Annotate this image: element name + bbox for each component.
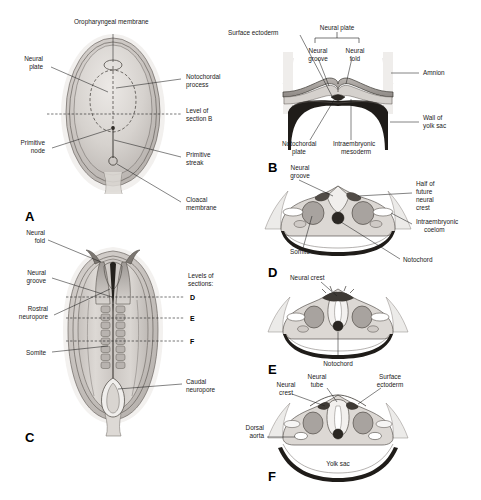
panel-d-leader-neural-groove (299, 180, 333, 196)
panel-c-drawing (48, 240, 184, 436)
label-level-section-b-line2: section B (186, 115, 212, 122)
label-neural-groove-b-line2: groove (308, 55, 328, 63)
panel-d-coelom-right (373, 208, 393, 216)
label-neural-plate-a-line2: plate (29, 63, 43, 71)
label-notochord-e: Notochord (323, 360, 353, 367)
label-surface-ectoderm-f-line1: Surface (379, 373, 401, 380)
label-notochordal-process-line1: Notochordal (186, 73, 220, 80)
panel-d-aorta-left (294, 221, 306, 228)
label-level-section-b-line1: Level of (186, 107, 209, 114)
label-primitive-node-line2: node (31, 147, 46, 154)
panel-d-somite-right (352, 202, 374, 225)
label-intraembryonic-coelom-line2: coelom (424, 226, 445, 233)
label-surface-ectoderm-b: Surface ectoderm (228, 29, 278, 36)
label-somite-c: Somite (26, 349, 46, 356)
panel-letter-d: D (268, 265, 277, 280)
panel-f-notochord-shape (333, 429, 343, 439)
label-wall-yolk-sac-line2: yolk sac (423, 122, 447, 130)
label-cloacal-membrane-line2: membrane (186, 204, 217, 211)
label-neural-fold-c-line2: fold (35, 237, 46, 244)
panel-e-somite-right (352, 306, 372, 328)
label-caudal-neuropore-line2: neuropore (186, 386, 216, 394)
label-neural-tube-line1: Neural (308, 373, 327, 380)
label-intraembryonic-mesoderm-line1: Intraembryonic (333, 140, 376, 148)
panel-f-coelom-right (376, 420, 392, 427)
embryology-figure: Oropharyngeal membrane Neural plate Prim… (0, 0, 481, 500)
label-somite-d: Somite (290, 248, 310, 255)
panel-a-cloacal-membrane-core (111, 159, 115, 163)
label-neural-groove-b-line1: Neural (309, 47, 328, 54)
label-neural-crest-f-line2: crest (279, 389, 293, 396)
panel-d-aorta-right (370, 221, 382, 228)
label-caudal-neuropore-line1: Caudal (186, 378, 206, 385)
label-neural-groove-d-line2: groove (290, 172, 310, 180)
panel-e-aorta-right (368, 326, 379, 332)
label-dorsal-aorta-line2: aorta (249, 432, 264, 439)
panel-a-stalk-fill (104, 172, 122, 194)
label-primitive-node-line1: Primitive (21, 139, 46, 146)
label-yolk-sac-f: Yolk sac (326, 460, 350, 467)
label-neural-fold-b-line2: fold (350, 55, 361, 62)
label-wall-yolk-sac-line1: Wall of (423, 114, 443, 121)
panel-d-drawing (265, 180, 412, 259)
label-neural-tube-line2: tube (311, 381, 324, 388)
panel-d-coelom-left (283, 208, 303, 216)
label-notochordal-plate-line1: Notochordal (282, 140, 316, 147)
label-surface-ectoderm-f-line2: ectoderm (377, 381, 404, 388)
label-notochordal-plate-line2: plate (292, 148, 306, 156)
label-half-future-line3: neural (416, 196, 434, 203)
label-half-future-line1: Half of (416, 180, 435, 187)
panel-b-amnion-right (383, 52, 393, 114)
label-neural-groove-d-line1: Neural (291, 164, 310, 171)
label-neural-plate-a-line1: Neural (24, 55, 43, 62)
label-neural-plate-b: Neural plate (320, 24, 355, 32)
label-half-future-line2: future (416, 188, 433, 195)
panel-a-primitive-node-shape (111, 126, 115, 130)
panel-e-neural-crest-shape (322, 292, 354, 302)
label-level-f: F (190, 338, 195, 345)
label-amnion: Amnion (423, 69, 445, 76)
label-levels-sections-line1: Levels of (188, 272, 214, 279)
panel-d-notochord-shape (332, 212, 344, 224)
label-neural-crest-e: Neural crest (290, 274, 325, 281)
label-intraembryonic-mesoderm-line2: mesoderm (341, 148, 371, 155)
label-level-d: D (190, 294, 195, 301)
panel-f-dorsal-aorta-right (369, 432, 382, 439)
label-oropharyngeal-membrane: Oropharyngeal membrane (74, 18, 149, 26)
panel-f-somite-left (303, 412, 323, 434)
panel-letter-b: B (268, 160, 277, 175)
panel-e-aorta-left (298, 326, 309, 332)
panel-d-somite-left (302, 202, 324, 225)
label-neural-fold-b-line1: Neural (346, 47, 365, 54)
label-primitive-streak-line2: streak (186, 159, 204, 166)
label-rostral-neuropore-line1: Rostral (28, 305, 48, 312)
panel-f-leader-surface-ectoderm (358, 388, 381, 404)
label-level-e: E (190, 315, 195, 322)
panel-letter-a: A (25, 209, 35, 224)
panel-b-amnion-left (283, 52, 293, 114)
panel-d-leader-half-future-crest (358, 193, 412, 196)
panel-c-leader-neural-fold (48, 240, 101, 262)
panel-e-neural-canal (335, 301, 342, 323)
panel-b-amnion-line (283, 58, 393, 84)
panel-e-somite-left (304, 306, 324, 328)
label-levels-sections-line2: sections: (188, 280, 213, 287)
label-intraembryonic-coelom-line1: Intraembryonic (416, 218, 459, 226)
label-notochordal-process-line2: process (186, 81, 208, 89)
label-cloacal-membrane-line1: Cloacal (186, 196, 207, 203)
label-neural-groove-c-line1: Neural (27, 269, 46, 276)
label-notochord-d: Notochord (403, 256, 433, 263)
panel-f-neural-canal (335, 406, 342, 431)
label-dorsal-aorta-line1: Dorsal (246, 424, 264, 431)
panel-e-coelom-right (371, 313, 389, 321)
panel-f-dorsal-aorta-left (295, 432, 308, 439)
panel-b-neural-plate-bracket (315, 32, 359, 43)
panel-f-somite-right (353, 412, 373, 434)
label-neural-groove-c-line2: groove (26, 277, 46, 285)
panel-e-notochord-shape (333, 321, 343, 331)
panel-letter-f: F (268, 469, 276, 484)
panel-letter-e: E (268, 362, 277, 377)
panel-a-drawing (47, 34, 182, 202)
panel-letter-c: C (25, 430, 35, 445)
panel-e-drawing (268, 282, 408, 359)
